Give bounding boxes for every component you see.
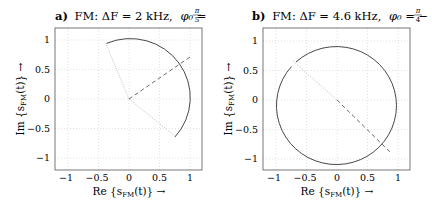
svg-text:0: 0 [334,172,340,183]
svg-text:−1: −1 [267,172,281,183]
panel-b-ylabel: Im {sFM(t)} → [222,62,236,135]
panel-a-title-num: π [194,7,200,15]
panel-b: b) FM: ΔF = 4.6 kHz, φ₀ = − π 4 1 [222,7,428,199]
panel-a-start-ray [106,44,129,99]
panel-b-xticks: −1 −0.5 0 0.5 1 [267,172,401,183]
panel-a: a) FM: ΔF = 2 kHz, φ₀ = π 5 [14,7,206,199]
svg-text:1: 1 [395,172,401,183]
panel-a-initial-phasor [129,57,190,99]
svg-text:1: 1 [187,172,193,183]
svg-text:−1: −1 [36,152,50,163]
panel-a-xticks: −1 −0.5 0 0.5 1 [59,172,193,183]
panel-a-ylabel: Im {sFM(t)} → [14,62,28,135]
svg-text:0: 0 [44,93,50,104]
svg-text:0.5: 0.5 [360,172,375,183]
panel-a-yticks: 1 0.5 0 −0.5 −1 [27,34,50,163]
svg-text:−1: −1 [244,153,258,164]
svg-text:0: 0 [252,94,258,105]
svg-text:1: 1 [44,34,50,45]
svg-text:0: 0 [126,172,132,183]
svg-text:−1: −1 [59,172,73,183]
panel-b-yticks: 1 0.5 0 −0.5 −1 [235,35,258,164]
panel-b-title-den: 4 [416,16,421,24]
svg-text:0.5: 0.5 [152,172,167,183]
svg-text:−0.5: −0.5 [85,172,108,183]
svg-text:0.5: 0.5 [35,64,50,75]
panel-a-end-ray [129,99,176,137]
panel-b-xlabel: Re {sFM(t)} → [301,185,374,199]
panel-a-arc [107,39,191,137]
panel-b-title-num: π [415,7,421,15]
figure: a) FM: ΔF = 2 kHz, φ₀ = π 5 [0,0,432,210]
panel-b-ray [293,61,337,100]
svg-text:−0.5: −0.5 [293,172,316,183]
panel-b-grid [263,28,410,170]
panel-a-xlabel: Re {sFM(t)} → [93,185,166,199]
svg-text:−0.5: −0.5 [235,124,258,135]
svg-text:−0.5: −0.5 [27,123,50,134]
svg-text:0.5: 0.5 [243,65,258,76]
svg-text:1: 1 [252,35,258,46]
panel-a-grid [55,28,202,170]
panel-b-title: b) FM: ΔF = 4.6 kHz, φ₀ = − [252,9,428,23]
panel-a-title-den: 5 [195,16,199,24]
panel-b-frame [263,28,410,170]
panel-a-frame [55,28,202,170]
panel-a-title: a) FM: ΔF = 2 kHz, φ₀ = [55,9,206,23]
panel-b-arc [276,47,396,165]
